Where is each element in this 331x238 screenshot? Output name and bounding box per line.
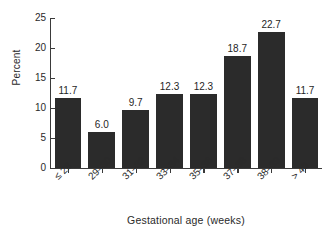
bar-chart: Percent 0510152025 11.76.09.712.312.318.…: [0, 0, 331, 238]
y-tick-label: 10: [22, 101, 46, 114]
y-tick-label: 0: [22, 161, 46, 174]
bar-group: 11.7: [55, 18, 82, 168]
y-tick-label: 5: [22, 131, 46, 144]
x-axis-title: Gestational age (weeks): [50, 214, 322, 226]
bar-value-label: 11.7: [59, 85, 78, 96]
bar-value-label: 9.7: [129, 97, 143, 108]
bar: [224, 56, 251, 168]
bar-value-label: 12.3: [160, 81, 179, 92]
bar: [292, 98, 319, 168]
bar-value-label: 22.7: [261, 19, 280, 30]
bar-value-label: 18.7: [228, 43, 247, 54]
bar-group: 6.0: [88, 18, 115, 168]
y-tick-label: 15: [22, 71, 46, 84]
bar-series: 11.76.09.712.312.318.722.711.7: [51, 18, 322, 168]
y-tick-label: 20: [22, 41, 46, 54]
bar: [55, 98, 82, 168]
bar-group: 22.7: [258, 18, 285, 168]
bar-value-label: 6.0: [95, 119, 109, 130]
bar-value-label: 12.3: [194, 81, 213, 92]
bar: [258, 32, 285, 168]
y-tick-label: 25: [22, 11, 46, 24]
bar-group: 12.3: [156, 18, 183, 168]
y-axis-title: Percent: [11, 28, 22, 108]
bar-group: 12.3: [190, 18, 217, 168]
bar-group: 18.7: [224, 18, 251, 168]
bar-group: 11.7: [292, 18, 319, 168]
plot-area: 0510152025 11.76.09.712.312.318.722.711.…: [50, 18, 322, 168]
bar-value-label: 11.7: [296, 85, 315, 96]
x-axis-tick-labels: ≤ 2829–3031–3233–3435–3637–3838–39> 40: [50, 168, 322, 208]
bar-group: 9.7: [122, 18, 149, 168]
